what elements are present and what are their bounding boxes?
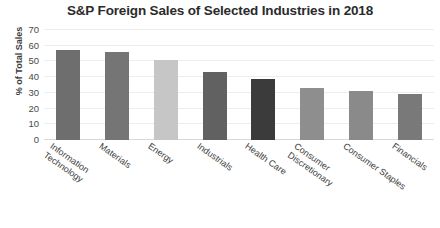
y-axis-tick-label: 40	[28, 71, 39, 82]
x-axis-tick-label-line: Materials	[97, 141, 133, 171]
x-axis-labels: InformationTechnologyMaterialsEnergyIndu…	[44, 141, 434, 228]
bar	[349, 91, 373, 140]
gridline: 60	[44, 45, 434, 46]
x-axis-tick-label-line: Financials	[390, 141, 429, 173]
y-axis-tick-label: 50	[28, 55, 39, 66]
x-axis-tick-label: Materials	[97, 141, 133, 171]
y-axis-tick-label: 10	[28, 118, 39, 129]
gridline: 20	[44, 108, 434, 109]
y-axis-tick-label: 30	[28, 86, 39, 97]
gridline: 70	[44, 29, 434, 30]
bar	[56, 50, 80, 140]
bar	[251, 79, 275, 140]
y-axis-tick-label: 20	[28, 102, 39, 113]
x-axis-tick-label: InformationTechnology	[42, 141, 91, 184]
bar-chart: S&P Foreign Sales of Selected Industries…	[0, 0, 440, 228]
bar	[300, 88, 324, 140]
gridline: 40	[44, 76, 434, 77]
x-axis-tick-label: ConsumerDiscretionary	[286, 141, 341, 188]
bar	[203, 72, 227, 140]
x-axis-tick-label: Energy	[146, 141, 175, 166]
x-axis-tick-label: Industrials	[195, 141, 235, 173]
y-axis-tick-label: 0	[34, 134, 39, 145]
gridline: 50	[44, 60, 434, 61]
bar	[398, 94, 422, 140]
bar	[105, 52, 129, 140]
gridline: 30	[44, 92, 434, 93]
plot-area: 010203040506070	[44, 30, 434, 140]
x-axis-tick-label: Financials	[390, 141, 429, 173]
y-axis-title: % of Total Sales	[14, 11, 24, 111]
bar	[154, 60, 178, 140]
x-axis-tick-label-line: Health Care	[243, 141, 288, 177]
x-axis-tick-label-line: Industrials	[195, 141, 235, 173]
x-axis-tick-label-line: Energy	[146, 141, 175, 166]
y-axis-tick-label: 70	[28, 24, 39, 35]
y-axis-tick-label: 60	[28, 39, 39, 50]
x-axis-tick-label: Health Care	[243, 141, 288, 177]
chart-title: S&P Foreign Sales of Selected Industries…	[0, 3, 440, 18]
gridline: 10	[44, 123, 434, 124]
